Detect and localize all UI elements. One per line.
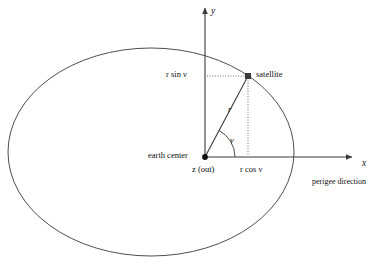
y-axis-label: y xyxy=(211,7,215,17)
radius-vector-line xyxy=(205,76,248,157)
r-cos-nu-label: r cos ν xyxy=(240,165,262,174)
orbit-diagram-canvas xyxy=(0,0,391,269)
earth-center-marker xyxy=(202,154,208,160)
r-sin-nu-label: r sin ν xyxy=(166,70,187,79)
perigee-direction-label: perigee direction xyxy=(312,178,366,186)
orbit-diagram: y x satellite earth center z (out) r sin… xyxy=(0,0,391,269)
true-anomaly-label: ν xyxy=(230,136,234,145)
earth-center-label: earth center xyxy=(148,151,188,160)
satellite-label: satellite xyxy=(256,70,282,79)
satellite-marker xyxy=(245,73,251,79)
x-axis-label: x xyxy=(362,159,366,169)
z-axis-label: z (out) xyxy=(192,165,214,174)
radius-label: r xyxy=(228,105,231,114)
